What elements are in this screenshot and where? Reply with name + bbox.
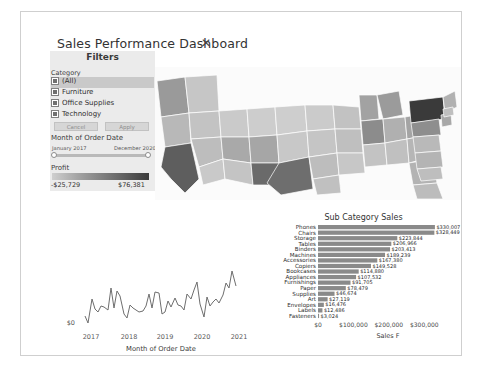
- line-x-tick: 2019: [157, 333, 174, 341]
- bar-x-tick: $100,000: [339, 321, 368, 328]
- bar-x-tick: $200,000: [375, 321, 404, 328]
- line-x-tick: 2018: [121, 333, 138, 341]
- category-option-label: (All): [62, 77, 76, 85]
- profit-color-gradient: [52, 173, 149, 180]
- bar[interactable]: [318, 225, 435, 229]
- state-la[interactable]: [313, 175, 341, 195]
- bar-value-label: $3,024: [321, 313, 339, 319]
- apply-button[interactable]: Apply: [105, 122, 149, 131]
- checkbox-icon[interactable]: [51, 88, 59, 96]
- category-option-all[interactable]: (All): [51, 77, 154, 88]
- bar[interactable]: [318, 269, 359, 273]
- bar[interactable]: [318, 236, 397, 240]
- dashboard-card: Sales Performance Dashboard ✕ Filters Ca…: [20, 11, 462, 356]
- bar-x-tick: $300,000: [410, 321, 439, 328]
- line-x-tick: 2021: [231, 333, 248, 341]
- line-x-tick: 2020: [194, 333, 211, 341]
- state-wa[interactable]: [157, 77, 189, 117]
- bar[interactable]: [318, 314, 319, 318]
- state-mi[interactable]: [377, 91, 403, 119]
- category-option-label: Technology: [62, 110, 101, 118]
- filters-title: Filters: [50, 52, 155, 62]
- cancel-button[interactable]: Cancel: [54, 122, 98, 131]
- state-mo[interactable]: [335, 129, 363, 153]
- state-ia[interactable]: [333, 105, 361, 129]
- checkbox-icon[interactable]: [51, 110, 59, 118]
- profit-legend-label: Profit: [51, 164, 69, 172]
- state-sd[interactable]: [275, 105, 307, 135]
- checkbox-icon[interactable]: [51, 77, 59, 85]
- close-icon[interactable]: ✕: [201, 36, 211, 50]
- state-ny[interactable]: [409, 97, 445, 123]
- line-x-axis-label: Month of Order Date: [126, 345, 196, 352]
- state-wy[interactable]: [219, 109, 249, 137]
- bar-value-label: $328,449: [436, 229, 460, 235]
- state-ms[interactable]: [363, 143, 387, 167]
- state-ca[interactable]: [161, 143, 199, 193]
- category-option-office-supplies[interactable]: Office Supplies: [51, 99, 154, 110]
- slider-handle-left[interactable]: [51, 152, 57, 158]
- line-x-tick: 2017: [83, 333, 100, 341]
- profit-legend-max: $76,381: [118, 181, 145, 189]
- bar-x-axis-label: Sales F: [376, 332, 399, 340]
- category-option-technology[interactable]: Technology: [51, 110, 154, 121]
- date-range-end: December 2020: [114, 145, 156, 151]
- state-nm[interactable]: [223, 159, 253, 185]
- state-sc[interactable]: [417, 167, 443, 181]
- checkbox-icon[interactable]: [51, 99, 59, 107]
- state-mn[interactable]: [305, 105, 335, 131]
- state-or[interactable]: [161, 113, 191, 147]
- category-option-label: Office Supplies: [62, 99, 114, 107]
- map-svg: [155, 67, 461, 200]
- profit-legend-min: -$25,729: [51, 181, 80, 189]
- state-ct-ri[interactable]: [443, 107, 454, 117]
- line-y-tick: $0: [67, 319, 75, 327]
- line-chart-svg: $0 2017 2018 2019 2020 2021 Month of Ord…: [51, 217, 266, 352]
- state-ks[interactable]: [307, 129, 337, 157]
- state-il[interactable]: [361, 119, 385, 145]
- bar[interactable]: [318, 258, 377, 262]
- monthly-sales-line-chart[interactable]: $0 2017 2018 2019 2020 2021 Month of Ord…: [51, 217, 266, 352]
- bar[interactable]: [318, 275, 356, 279]
- bar[interactable]: [318, 242, 391, 246]
- bar-chart-svg: Phones$330,007Chairs$328,449Storage$223,…: [266, 211, 461, 351]
- bar[interactable]: [318, 281, 350, 285]
- bar[interactable]: [318, 253, 385, 257]
- bar-x-tick: $0: [314, 321, 322, 328]
- state-co[interactable]: [249, 135, 279, 163]
- bar-category-label: Fasteners: [289, 313, 316, 319]
- state-fl[interactable]: [413, 183, 443, 199]
- us-choropleth-map[interactable]: [155, 67, 461, 200]
- state-wi[interactable]: [359, 95, 379, 121]
- state-va[interactable]: [413, 135, 441, 153]
- state-ar[interactable]: [337, 153, 365, 175]
- state-nc[interactable]: [415, 151, 443, 169]
- slider-handle-right[interactable]: [145, 152, 151, 158]
- date-range-slider[interactable]: [53, 154, 149, 157]
- state-mt[interactable]: [185, 75, 219, 113]
- state-nd[interactable]: [247, 107, 277, 137]
- line-series-sales: [85, 271, 236, 323]
- date-range-start: January 2017: [52, 145, 87, 151]
- bar[interactable]: [318, 247, 390, 251]
- category-filter-label: Category: [51, 69, 81, 77]
- page-title: Sales Performance Dashboard: [57, 36, 248, 51]
- line-x-axis: 2017 2018 2019 2020 2021: [83, 333, 248, 341]
- sub-category-sales-bar-chart[interactable]: Phones$330,007Chairs$328,449Storage$223,…: [266, 211, 461, 351]
- state-in[interactable]: [383, 117, 407, 143]
- date-filter-label: Month of Order Date: [51, 134, 123, 142]
- category-option-furniture[interactable]: Furniture: [51, 88, 154, 99]
- state-al[interactable]: [385, 139, 409, 165]
- state-ok[interactable]: [309, 153, 339, 179]
- dashboard-screen: Sales Performance Dashboard ✕ Filters Ca…: [0, 0, 482, 374]
- state-id[interactable]: [189, 111, 221, 139]
- category-option-label: Furniture: [62, 88, 93, 96]
